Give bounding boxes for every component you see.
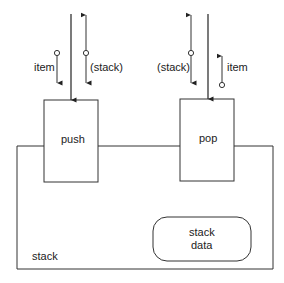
push-item-label: item bbox=[34, 61, 55, 73]
pop-item-label: item bbox=[227, 61, 248, 73]
push-label: push bbox=[61, 133, 85, 145]
data-couple-circle-icon bbox=[188, 50, 193, 55]
stack-data-label-line1: stack bbox=[189, 226, 215, 238]
stack-data-label-line2: data bbox=[191, 239, 213, 251]
stack-module-label: stack bbox=[32, 250, 58, 262]
push-item-flow bbox=[54, 50, 59, 83]
data-couple-circle-icon bbox=[83, 50, 88, 55]
push-operation bbox=[44, 14, 98, 182]
pop-operation bbox=[180, 14, 234, 181]
data-couple-circle-icon bbox=[219, 82, 224, 87]
stack-module-diagram: item (stack) push (stack) item pop stack… bbox=[0, 0, 284, 283]
pop-label: pop bbox=[199, 132, 217, 144]
pop-item-flow bbox=[219, 56, 224, 88]
data-couple-circle-icon bbox=[54, 50, 59, 55]
pop-stack-label: (stack) bbox=[157, 61, 190, 73]
push-stack-flow bbox=[83, 15, 88, 83]
push-stack-label: (stack) bbox=[90, 61, 123, 73]
